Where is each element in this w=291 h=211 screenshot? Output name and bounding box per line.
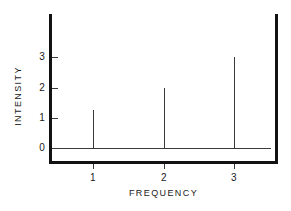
peak-frequency-2 <box>164 88 165 148</box>
y-axis-line <box>49 14 52 164</box>
y-tick-label-1: 1 <box>30 113 45 123</box>
x-tick-label-2: 2 <box>154 172 174 183</box>
peak-frequency-1 <box>93 110 94 148</box>
y-tick-mark-1 <box>52 118 58 119</box>
x-tick-label-1: 1 <box>83 172 103 183</box>
zero-baseline <box>57 148 271 149</box>
x-axis-title: FREQUENCY <box>49 188 278 198</box>
y-tick-label-1-wrap: 1 <box>30 113 45 123</box>
y-tick-label-3: 3 <box>30 52 45 62</box>
x-tick-mark-2 <box>164 164 165 169</box>
y-tick-mark-3 <box>52 57 58 58</box>
y-tick-label-0-wrap: 0 <box>30 143 45 153</box>
right-frame-line <box>275 14 278 164</box>
y-axis-title: INTENSITY <box>13 46 23 146</box>
spectrum-chart: 3 2 1 0 1 2 3 FREQUENCY INTENSITY <box>0 0 291 211</box>
y-tick-mark-0 <box>52 148 58 149</box>
x-tick-mark-3 <box>234 164 235 169</box>
y-tick-label-2: 2 <box>30 83 45 93</box>
y-tick-mark-2 <box>52 88 58 89</box>
y-tick-label-3-wrap: 3 <box>30 52 45 62</box>
y-tick-label-0: 0 <box>30 143 45 153</box>
x-tick-mark-1 <box>93 164 94 169</box>
x-tick-label-3: 3 <box>224 172 244 183</box>
peak-frequency-3 <box>234 57 235 148</box>
y-tick-label-2-wrap: 2 <box>30 83 45 93</box>
